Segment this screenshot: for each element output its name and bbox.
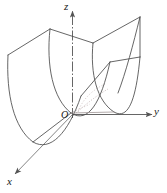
ruling-line-upper-left xyxy=(8,29,50,55)
ruling-line-upper-mid xyxy=(50,29,93,43)
x-axis-label: x xyxy=(7,176,12,187)
y-axis-label: y xyxy=(154,106,159,117)
z-axis-label: z xyxy=(64,1,68,12)
parabola-cross-section-near xyxy=(8,55,81,145)
figure-container: z y x O xyxy=(0,0,167,193)
parabolic-cylinder-diagram xyxy=(0,0,167,193)
ridge-line-top-right xyxy=(93,17,140,43)
ruling-line-right-branch-far xyxy=(110,57,140,62)
x-axis xyxy=(15,115,73,175)
surface-group xyxy=(8,17,140,145)
parabola-cross-section-far xyxy=(92,43,140,114)
ruling-line-vertex-right xyxy=(71,112,114,113)
origin-label: O xyxy=(61,110,68,120)
